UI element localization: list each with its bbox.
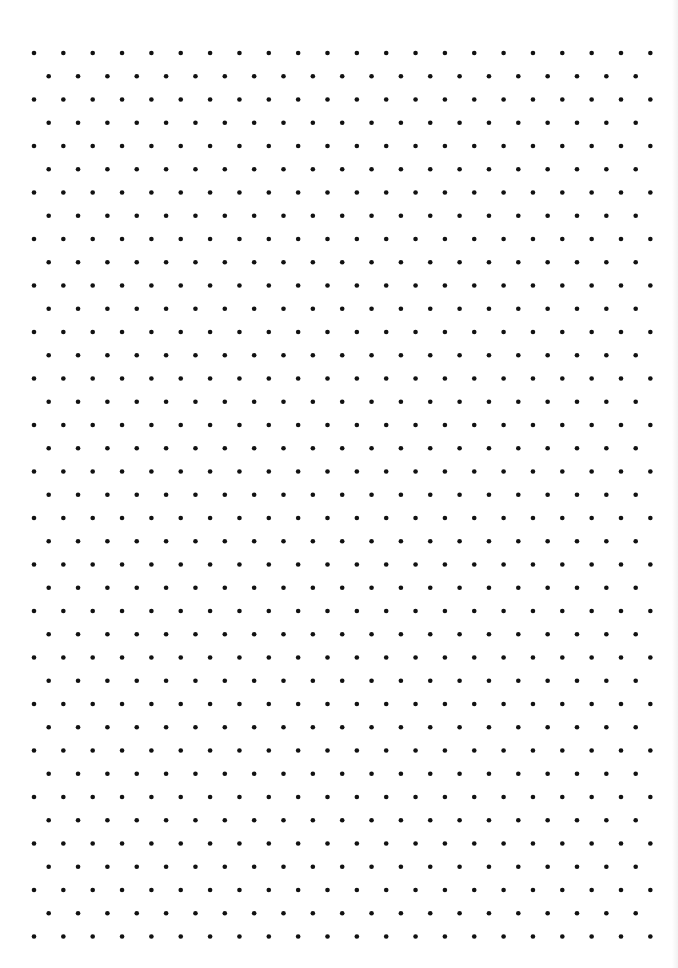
grid-dot: [633, 260, 638, 265]
grid-dot: [531, 516, 536, 521]
grid-dot: [178, 655, 183, 660]
grid-dot: [531, 144, 536, 149]
grid-dot: [516, 632, 521, 637]
grid-dot: [252, 120, 257, 125]
grid-dot: [237, 51, 242, 56]
grid-dot: [223, 399, 228, 404]
grid-dot: [501, 469, 506, 474]
grid-dot: [619, 516, 624, 521]
grid-dot: [487, 213, 492, 218]
grid-dot: [531, 97, 536, 102]
grid-dot: [633, 818, 638, 823]
grid-dot: [384, 237, 389, 242]
grid-dot: [633, 725, 638, 730]
grid-dot: [340, 74, 345, 79]
grid-dot: [472, 609, 477, 614]
grid-dot: [648, 516, 653, 521]
grid-dot: [296, 330, 301, 335]
grid-dot: [619, 376, 624, 381]
grid-dot: [340, 864, 345, 869]
grid-dot: [223, 818, 228, 823]
grid-dot: [384, 190, 389, 195]
grid-dot: [413, 655, 418, 660]
grid-dot: [325, 283, 330, 288]
grid-dot: [428, 353, 433, 358]
grid-dot: [443, 97, 448, 102]
grid-dot: [648, 795, 653, 800]
grid-dot: [325, 97, 330, 102]
grid-dot: [134, 446, 139, 451]
grid-dot: [267, 934, 272, 939]
grid-dot: [134, 120, 139, 125]
grid-dot: [384, 934, 389, 939]
grid-dot: [355, 144, 360, 149]
grid-dot: [208, 888, 213, 893]
grid-dot: [193, 678, 198, 683]
grid-dot: [76, 399, 81, 404]
grid-dot: [428, 585, 433, 590]
grid-dot: [120, 144, 125, 149]
grid-dot: [545, 399, 550, 404]
grid-dot: [575, 306, 580, 311]
grid-dot: [340, 539, 345, 544]
grid-dot: [61, 423, 66, 428]
grid-dot: [223, 632, 228, 637]
grid-dot: [237, 516, 242, 521]
grid-dot: [443, 795, 448, 800]
grid-dot: [178, 283, 183, 288]
grid-dot: [90, 190, 95, 195]
grid-dot: [428, 306, 433, 311]
grid-dot: [325, 841, 330, 846]
grid-dot: [589, 237, 594, 242]
grid-dot: [545, 260, 550, 265]
grid-dot: [32, 330, 37, 335]
grid-dot: [487, 585, 492, 590]
grid-dot: [90, 97, 95, 102]
grid-dot: [501, 97, 506, 102]
grid-dot: [399, 539, 404, 544]
grid-dot: [120, 283, 125, 288]
grid-dot: [399, 492, 404, 497]
grid-dot: [457, 771, 462, 776]
grid-dot: [281, 399, 286, 404]
grid-dot: [252, 725, 257, 730]
grid-dot: [76, 306, 81, 311]
grid-dot: [633, 585, 638, 590]
grid-dot: [487, 74, 492, 79]
grid-dot: [120, 702, 125, 707]
grid-dot: [501, 237, 506, 242]
grid-dot: [575, 446, 580, 451]
grid-dot: [267, 516, 272, 521]
grid-dot: [369, 771, 374, 776]
grid-dot: [545, 306, 550, 311]
grid-dot: [443, 190, 448, 195]
grid-dot: [575, 725, 580, 730]
grid-dot: [134, 678, 139, 683]
grid-dot: [472, 330, 477, 335]
grid-dot: [267, 190, 272, 195]
isometric-dot-grid: [0, 0, 678, 968]
grid-dot: [472, 888, 477, 893]
grid-dot: [105, 74, 110, 79]
grid-dot: [648, 144, 653, 149]
grid-dot: [487, 818, 492, 823]
grid-dot: [531, 655, 536, 660]
grid-dot: [134, 725, 139, 730]
grid-dot: [311, 399, 316, 404]
grid-dot: [648, 97, 653, 102]
grid-dot: [560, 702, 565, 707]
grid-dot: [252, 213, 257, 218]
grid-dot: [501, 376, 506, 381]
grid-dot: [223, 353, 228, 358]
grid-dot: [208, 330, 213, 335]
grid-dot: [619, 609, 624, 614]
grid-dot: [399, 213, 404, 218]
grid-dot: [619, 330, 624, 335]
grid-dot: [61, 702, 66, 707]
grid-dot: [633, 632, 638, 637]
grid-dot: [575, 213, 580, 218]
grid-dot: [32, 841, 37, 846]
grid-dot: [648, 237, 653, 242]
grid-dot: [428, 678, 433, 683]
grid-dot: [149, 702, 154, 707]
